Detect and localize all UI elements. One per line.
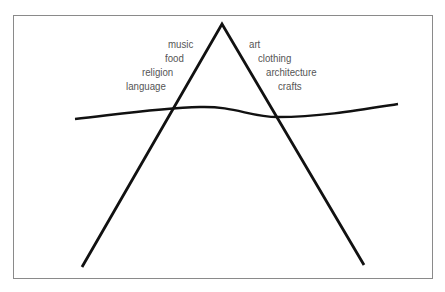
left-label-language: language [126,80,166,93]
triangle-outline [82,24,364,267]
left-label-food: food [165,52,184,65]
triangle-waterline-drawing [0,0,445,292]
right-label-art: art [249,38,260,51]
right-label-clothing: clothing [258,52,291,65]
left-label-religion: religion [142,66,173,79]
left-label-music: music [168,38,193,51]
right-label-crafts: crafts [278,80,302,93]
right-label-architecture: architecture [266,66,317,79]
waterline-wave [75,104,398,119]
